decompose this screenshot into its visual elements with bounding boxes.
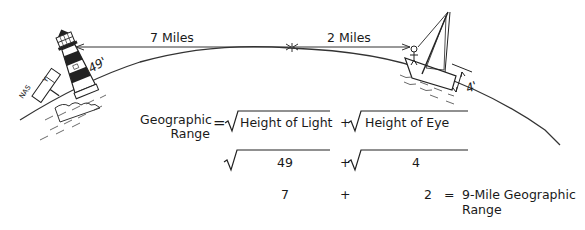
formula-plus-1: + [340, 116, 350, 130]
formula-term-height-of-light: Height of Light [240, 116, 333, 130]
sailboat-icon [400, 12, 456, 91]
formula-lhs-line2: Range [140, 127, 210, 141]
formula-value-2: 2 [424, 188, 432, 202]
formula-value-49: 49 [260, 156, 310, 170]
formula-result-line2: Range [462, 203, 502, 217]
right-distance-label: 2 Miles [327, 30, 371, 45]
formula-value-7: 7 [260, 188, 310, 202]
sign-icon [32, 68, 70, 108]
left-distance-label: 7 Miles [150, 30, 194, 45]
formula-equals-2: = [444, 188, 454, 202]
formula-equals: = [213, 116, 226, 130]
formula-plus-3: + [340, 188, 350, 202]
formula-plus-2: + [340, 156, 350, 170]
formula-term-height-of-eye: Height of Eye [365, 116, 449, 130]
formula-result-line1: 9-Mile Geographic [462, 188, 576, 202]
formula-lhs-line1: Geographic [140, 113, 210, 127]
formula-value-4: 4 [396, 156, 436, 170]
